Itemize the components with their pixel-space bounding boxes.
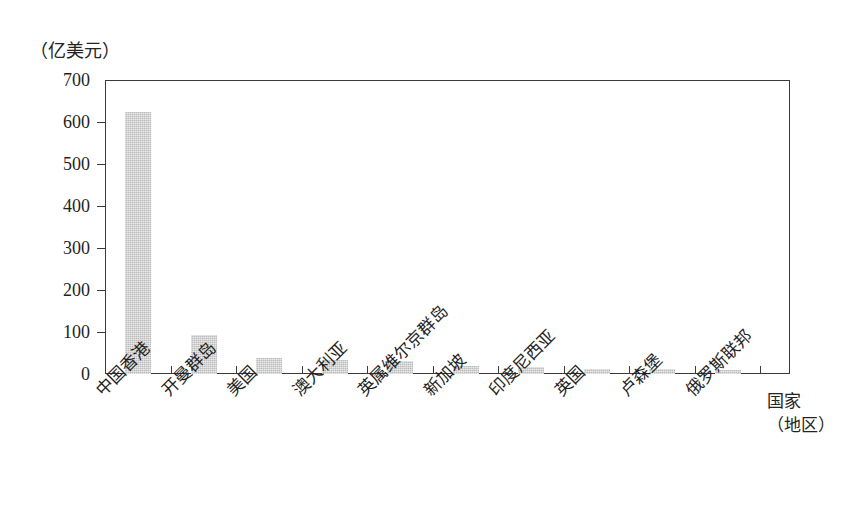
bar-3 — [322, 360, 348, 374]
bar-4 — [387, 361, 413, 374]
y-tick-label-700: 700 — [28, 71, 90, 89]
x-tick-mark-8 — [629, 366, 630, 374]
x-axis-tick-marks — [105, 374, 790, 384]
x-axis-title: 国家 （地区） — [767, 390, 835, 438]
bar-6 — [518, 367, 544, 374]
x-tick-mark-1 — [171, 366, 172, 374]
y-tick-label-600: 600 — [28, 113, 90, 131]
bar-2 — [256, 358, 282, 374]
x-tick-mark-9 — [695, 366, 696, 374]
y-tick-label-200: 200 — [28, 281, 90, 299]
y-tick-label-300: 300 — [28, 239, 90, 257]
bars-container — [105, 80, 790, 374]
x-tick-mark-0 — [105, 366, 106, 374]
y-tick-label-400: 400 — [28, 197, 90, 215]
x-tick-mark-7 — [564, 366, 565, 374]
x-tick-mark-5 — [433, 366, 434, 374]
x-tick-mark-4 — [367, 366, 368, 374]
x-tick-mark-3 — [302, 366, 303, 374]
bar-0 — [125, 112, 151, 375]
bar-1 — [191, 335, 217, 374]
x-axis-title-line2: （地区） — [767, 414, 835, 438]
bar-chart-figure: （亿美元） 700 600 500 400 300 200 100 0 — [0, 0, 859, 521]
y-tick-label-0: 0 — [28, 365, 90, 383]
y-tick-label-500: 500 — [28, 155, 90, 173]
x-tick-mark-6 — [498, 366, 499, 374]
y-tick-label-100: 100 — [28, 323, 90, 341]
x-axis-title-line1: 国家 — [767, 392, 801, 411]
x-tick-mark-2 — [236, 366, 237, 374]
y-axis-unit-label: （亿美元） — [30, 36, 120, 62]
bar-5 — [453, 366, 479, 374]
x-tick-mark-10 — [760, 366, 761, 374]
